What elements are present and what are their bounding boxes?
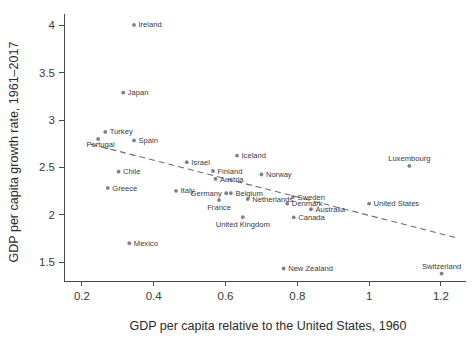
data-point: [282, 267, 286, 271]
y-tick-label: 3: [49, 114, 55, 126]
y-axis-title: GDP per capita growth rate, 1961–2017: [7, 42, 21, 263]
data-points: IrelandJapanTurkeySpainPortugalIcelandLu…: [86, 20, 461, 275]
data-point-label: Japan: [128, 88, 149, 97]
data-point: [185, 160, 189, 164]
data-point-label: Greece: [112, 184, 137, 193]
data-point-label: Switzerland: [422, 262, 461, 271]
data-point: [132, 138, 136, 142]
y-tick-label: 2.5: [39, 161, 55, 173]
x-tick-label: 1.2: [433, 290, 449, 302]
x-tick-label: 0.8: [289, 290, 305, 302]
y-tick-label: 1.5: [39, 256, 55, 268]
data-point: [309, 207, 313, 211]
data-point-label: Israel: [191, 158, 210, 167]
data-point: [407, 164, 411, 168]
data-point: [132, 23, 136, 27]
data-point: [285, 202, 289, 206]
data-point: [224, 191, 228, 195]
data-point: [292, 215, 296, 219]
data-point: [241, 215, 245, 219]
y-tick-label: 2: [49, 209, 55, 221]
chart-canvas: 1.522.533.54 0.20.40.60.811.2 IrelandJap…: [0, 0, 476, 345]
data-point-label: Luxembourg: [388, 154, 430, 163]
data-point: [229, 191, 233, 195]
data-point: [367, 202, 371, 206]
data-point-label: Spain: [138, 136, 157, 145]
data-point: [174, 189, 178, 193]
data-point-label: Canada: [298, 213, 325, 222]
data-point-label: Germany: [191, 189, 222, 198]
data-point-label: New Zealand: [288, 264, 333, 273]
y-axis-ticks: 1.522.533.54: [39, 19, 64, 268]
data-point: [260, 173, 264, 177]
data-point-label: Portugal: [86, 140, 115, 149]
x-axis-title: GDP per capita relative to the United St…: [129, 319, 406, 333]
data-point-label: Chile: [123, 167, 140, 176]
data-point: [246, 197, 250, 201]
x-tick-label: 0.6: [218, 290, 234, 302]
data-point-label: Austria: [220, 175, 244, 184]
data-point-label: Turkey: [110, 127, 133, 136]
axes: [64, 14, 466, 281]
data-point-label: Mexico: [134, 239, 158, 248]
x-tick-label: 0.4: [146, 290, 163, 302]
data-point: [440, 272, 444, 276]
data-point-label: Iceland: [242, 151, 267, 160]
data-point: [211, 169, 215, 173]
data-point: [235, 154, 239, 158]
x-tick-label: 0.2: [74, 290, 90, 302]
x-axis-ticks: 0.20.40.60.811.2: [74, 281, 449, 302]
data-point: [103, 130, 107, 134]
y-tick-label: 4: [49, 19, 56, 31]
data-point-label: France: [207, 203, 231, 212]
y-tick-label: 3.5: [39, 67, 55, 79]
scatter-chart: 1.522.533.54 0.20.40.60.811.2 IrelandJap…: [0, 0, 476, 345]
data-point: [117, 170, 121, 174]
data-point: [121, 91, 125, 95]
data-point: [106, 186, 110, 190]
data-point-label: United States: [374, 199, 420, 208]
x-tick-label: 1: [366, 290, 372, 302]
data-point-label: United Kingdom: [216, 220, 270, 229]
data-point: [214, 177, 218, 181]
data-point: [127, 241, 131, 245]
data-point-label: Norway: [266, 170, 292, 179]
data-point: [217, 198, 221, 202]
data-point-label: Ireland: [138, 20, 161, 29]
